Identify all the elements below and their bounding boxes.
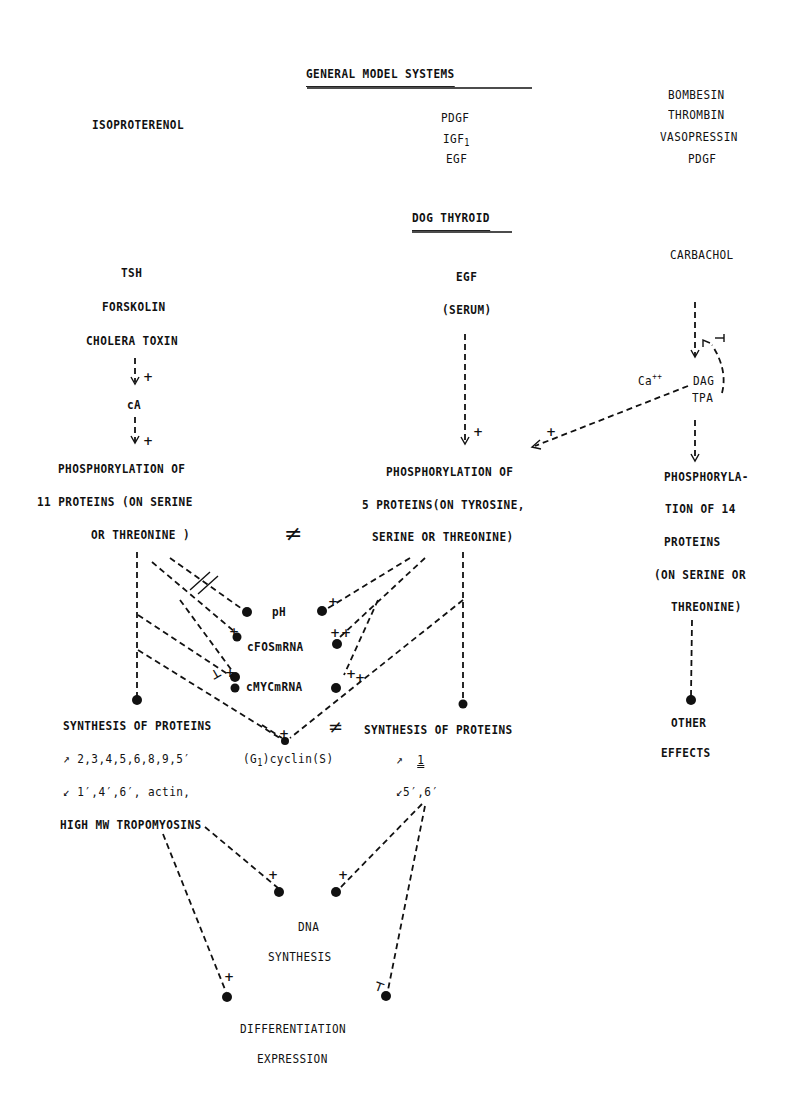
plus-sign: + [224,971,234,983]
dag-label: DAG [693,374,714,387]
other-effects-line1: OTHER [671,716,706,729]
plus-sign: + [338,869,348,881]
plus-sign: + [143,371,153,383]
left-synthesis-down: ↙ 1′,4′,6′, actin, [63,785,190,798]
center-synthesis-up: ↗ 1 [396,753,424,766]
ca-mediator-label: cA [127,398,141,411]
plus-sign: + [341,627,351,639]
tsh-label: TSH [121,266,142,279]
plus-sign: + [473,426,483,438]
left-phosphorylation-line1: PHOSPHORYLATION OF [58,462,185,475]
left-phosphorylation-line3: OR THREONINE ) [91,528,190,541]
bombesin-label: BOMBESIN [668,88,725,101]
tpa-label: TPA [692,391,713,404]
ph-label: pH [272,605,286,618]
isoproterenol-label: ISOPROTERENOL [92,118,184,131]
up-arrow-icon: ↗ [63,751,70,766]
right-phosphorylation-line1: PHOSPHORYLA- [664,470,749,483]
igf-label: IGF1 [443,132,470,148]
left-synthesis-title: SYNTHESIS OF PROTEINS [63,719,212,732]
right-phosphorylation-line5: THREONINE) [671,600,742,613]
pathway-diagram: GENERAL MODEL SYSTEMS DOG THYROID ISOPRO… [0,0,808,1109]
plus-sign: + [143,435,153,447]
left-synthesis-up: ↗ 2,3,4,5,6,8,9,5′ [63,752,190,765]
plus-sign: + [225,667,235,679]
right-phosphorylation-line2: TION OF 14 [665,502,736,515]
cfos-mrna-label: cFOSmRNA [247,640,304,653]
serum-label: (SERUM) [442,303,492,316]
cyclin-label: (G1)cyclin(S) [243,752,333,768]
general-model-systems-title: GENERAL MODEL SYSTEMS [306,67,455,87]
center-synthesis-down: ↙5′,6′ [396,785,438,798]
pdgf-right-label: PDGF [688,152,716,165]
not-equal-sign: ≠ [284,523,302,545]
plus-sign: + [330,627,340,639]
right-phosphorylation-line3: PROTEINS [664,535,721,548]
plus-sign: + [546,426,556,438]
egf-center-label: EGF [456,270,477,283]
dog-thyroid-title: DOG THYROID [412,211,490,231]
calcium-label: Ca++ [638,372,662,387]
center-phosphorylation-line2: 5 PROTEINS(ON TYROSINE, [362,498,525,511]
up-arrow-icon: ↗ [396,752,403,767]
left-phosphorylation-line2: 11 PROTEINS (ON SERINE [37,495,193,508]
down-arrow-icon: ↙ [63,784,70,799]
pdgf-label: PDGF [441,111,469,124]
center-phosphorylation-line1: PHOSPHORYLATION OF [386,465,513,478]
carbachol-label: CARBACHOL [670,248,734,261]
plus-sign: + [229,626,239,638]
plus-sign: + [328,596,338,608]
vasopressin-label: VASOPRESSIN [660,130,738,143]
plus-sign: + [279,728,289,740]
center-synthesis-title: SYNTHESIS OF PROTEINS [364,723,513,736]
cholera-toxin-label: CHOLERA TOXIN [86,334,178,347]
other-effects-line2: EFFECTS [661,746,711,759]
connector-lines [0,0,808,1109]
synthesis-label: SYNTHESIS [268,950,332,963]
right-phosphorylation-line4: (ON SERINE OR [654,568,746,581]
thrombin-label: THROMBIN [668,108,725,121]
plus-sign: + [268,869,278,881]
forskolin-label: FORSKOLIN [102,300,166,313]
differentiation-label: DIFFERENTIATION [240,1022,346,1035]
not-equal-sign: ≠ [328,718,343,736]
cmyc-mrna-label: cMYCmRNA [246,680,303,693]
egf-label: EGF [446,152,467,165]
plus-sign: + [355,672,365,684]
left-synthesis-tropomyosins: HIGH MW TROPOMYOSINS [60,818,202,831]
expression-label: EXPRESSION [257,1052,328,1065]
center-phosphorylation-line3: SERINE OR THREONINE) [372,530,514,543]
dna-label: DNA [298,920,319,933]
